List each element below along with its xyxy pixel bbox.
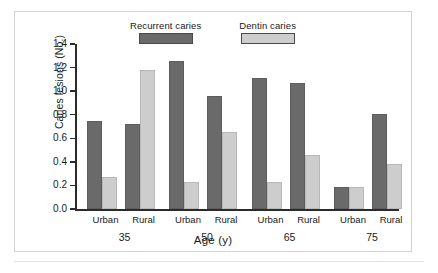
- bar-group: [334, 44, 410, 209]
- x-axis-sublabel: Urban: [334, 214, 372, 225]
- x-axis-line: [75, 209, 399, 211]
- legend-swatch-dentin-caries: [241, 33, 295, 44]
- y-axis-tick: [70, 43, 75, 45]
- y-axis-tick-label: 0.2: [27, 180, 67, 190]
- bar-group: [87, 44, 163, 209]
- y-axis-tick-label: 1.4: [27, 39, 67, 49]
- legend-item-dentin-caries: Dentin caries: [239, 20, 296, 44]
- y-axis-tick-label: 1.2: [27, 63, 67, 73]
- bar-recurrent: [372, 114, 387, 209]
- bar-recurrent: [207, 96, 222, 209]
- y-axis-tick-label: 0.6: [27, 133, 67, 143]
- bar-subgroup: [290, 44, 320, 209]
- bar-dentin: [140, 70, 155, 209]
- x-axis-title: Age (y): [15, 234, 411, 246]
- x-axis-sublabel: Urban: [252, 214, 290, 225]
- x-axis-sublabel: Rural: [372, 214, 410, 225]
- chart-legend: Recurrent caries Dentin caries: [15, 20, 411, 44]
- y-axis-tick: [70, 138, 75, 140]
- bar-recurrent: [169, 61, 184, 210]
- bar-dentin: [387, 164, 402, 209]
- y-axis-tick-label: 0.4: [27, 157, 67, 167]
- bar-subgroup: [125, 44, 155, 209]
- y-axis-tick: [70, 90, 75, 92]
- x-axis-sublabel: Urban: [87, 214, 125, 225]
- bar-subgroup: [169, 44, 199, 209]
- bar-dentin: [305, 155, 320, 209]
- page-rule: [14, 261, 424, 262]
- bar-subgroup: [334, 44, 364, 209]
- bar-recurrent: [87, 121, 102, 209]
- bar-recurrent: [290, 83, 305, 209]
- bar-dentin: [222, 132, 237, 209]
- x-axis-sublabel: Rural: [125, 214, 163, 225]
- bar-group: [169, 44, 245, 209]
- y-axis-tick: [70, 67, 75, 69]
- bars-container: [77, 44, 399, 209]
- y-axis-tick-label: 1.0: [27, 86, 67, 96]
- bar-dentin: [349, 187, 364, 209]
- bar-dentin: [184, 182, 199, 209]
- x-axis-sublabel: Urban: [169, 214, 207, 225]
- bar-dentin: [267, 182, 282, 209]
- legend-label-dentin-caries: Dentin caries: [239, 20, 296, 31]
- bar-subgroup: [87, 44, 117, 209]
- bar-subgroup: [372, 44, 402, 209]
- y-axis-tick: [70, 161, 75, 163]
- plot-area: 0.00.20.40.60.81.01.21.4: [75, 44, 398, 209]
- bar-recurrent: [125, 124, 140, 209]
- legend-label-recurrent-caries: Recurrent caries: [130, 20, 201, 31]
- bar-group: [252, 44, 328, 209]
- bar-recurrent: [252, 78, 267, 209]
- y-axis-tick: [70, 114, 75, 116]
- y-axis-tick-label: 0.0: [27, 204, 67, 214]
- legend-swatch-recurrent-caries: [139, 33, 193, 44]
- bar-subgroup: [252, 44, 282, 209]
- x-axis-sublabel: Rural: [290, 214, 328, 225]
- chart-figure: Recurrent caries Dentin caries Caries le…: [14, 11, 412, 252]
- bar-recurrent: [334, 187, 349, 209]
- bar-subgroup: [207, 44, 237, 209]
- y-axis-tick-label: 0.8: [27, 110, 67, 120]
- bar-dentin: [102, 177, 117, 209]
- x-axis-sublabel: Rural: [207, 214, 245, 225]
- y-axis-tick: [70, 185, 75, 187]
- y-axis-tick-labels: 0.00.20.40.60.81.01.21.4: [23, 44, 67, 209]
- legend-item-recurrent-caries: Recurrent caries: [130, 20, 201, 44]
